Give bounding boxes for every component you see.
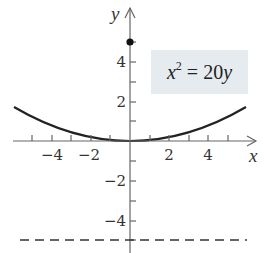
x-tick-label-4: 4 xyxy=(203,146,213,164)
y-axis-label: y xyxy=(109,3,120,24)
y-tick-label-4: 4 xyxy=(116,53,126,71)
eq-rest: = 20 xyxy=(182,61,223,83)
y-tick-label-neg2: −2 xyxy=(104,172,126,190)
eq-x: x xyxy=(167,61,176,83)
x-tick-label-neg4: −4 xyxy=(41,146,63,164)
y-tick-label-2: 2 xyxy=(116,93,126,111)
parabola-chart: −4 −2 2 4 4 2 −2 −4 x y xyxy=(0,0,267,253)
focus-point xyxy=(126,38,133,45)
x-tick-label-2: 2 xyxy=(164,146,174,164)
x-axis-label: x xyxy=(248,145,258,166)
equation-label: x2 = 20y xyxy=(151,50,248,94)
y-tick-label-neg4: −4 xyxy=(104,212,126,230)
equation-box: x2 = 20y xyxy=(151,50,248,94)
eq-y: y xyxy=(223,61,232,83)
x-tick-label-neg2: −2 xyxy=(78,146,100,164)
